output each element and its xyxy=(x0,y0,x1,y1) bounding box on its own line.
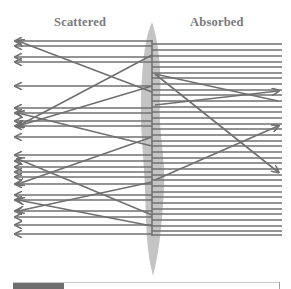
diagonal-ray-arrow xyxy=(18,113,152,146)
diagonal-ray-arrow xyxy=(18,200,152,226)
incident-rays xyxy=(152,44,282,235)
progress-end-tick xyxy=(279,282,280,289)
diagonal-ray-arrow xyxy=(18,86,152,126)
scattered-rays xyxy=(16,41,152,234)
scatter-absorb-diagram xyxy=(0,0,291,289)
progress-fill xyxy=(13,283,64,289)
diagonal-ray-arrow xyxy=(155,126,278,180)
diagonal-ray-arrow xyxy=(155,91,278,105)
